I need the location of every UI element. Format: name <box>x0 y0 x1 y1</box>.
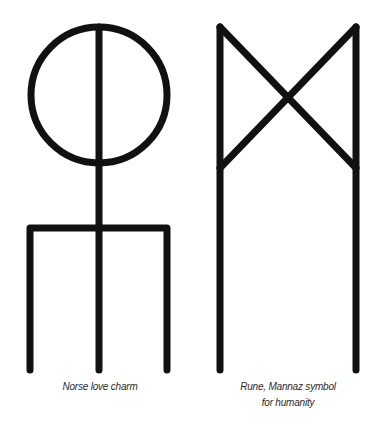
symbols-illustration <box>0 0 380 425</box>
mannaz-rune-caption: Rune, Mannaz symbol for humanity <box>218 379 358 411</box>
mannaz-rune-symbol <box>220 27 356 370</box>
norse-love-charm-caption: Norse love charm <box>40 379 160 395</box>
mannaz-caption-line-1: Rune, Mannaz symbol <box>218 379 358 395</box>
norse-love-charm-symbol <box>30 27 167 370</box>
mannaz-caption-line-2: for humanity <box>218 395 358 411</box>
